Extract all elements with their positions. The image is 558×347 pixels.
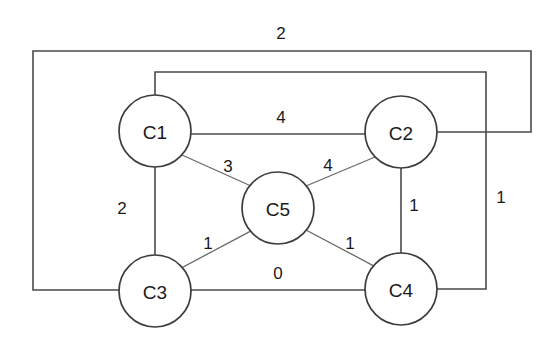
graph-diagram: 2 1 4 2 1 0 3 4 1 1 (0, 0, 558, 347)
node-c5[interactable]: C5 (242, 172, 314, 244)
node-c5-label: C5 (266, 199, 290, 220)
edge-weight-c1-c5: 3 (223, 157, 232, 176)
node-c2-label: C2 (389, 123, 413, 144)
edge-weight-c3-c2: 2 (276, 24, 285, 43)
edge-weight-c1-c2: 4 (276, 108, 285, 127)
edge-weight-c3-c4: 0 (273, 264, 282, 283)
edge-c3-c2-outer: 2 (33, 24, 531, 291)
edge-weight-c3-c5: 1 (203, 234, 212, 253)
edge-c5-c2-path (306, 157, 375, 186)
edge-c2-c4: 1 (401, 168, 419, 253)
edge-c1-c4-inner: 1 (155, 72, 506, 289)
node-c1[interactable]: C1 (119, 95, 191, 167)
node-c3-label: C3 (143, 282, 167, 303)
edge-c5-c4: 1 (306, 230, 374, 266)
edge-c3-c5: 1 (183, 231, 251, 267)
node-c4[interactable]: C4 (365, 253, 437, 325)
edge-weight-c5-c2: 4 (323, 156, 332, 175)
edge-c3-c4: 0 (191, 264, 365, 291)
edge-weight-c2-c4: 1 (409, 196, 418, 215)
edge-weight-c1-c4: 1 (496, 188, 505, 207)
edge-c1-c3: 2 (117, 167, 155, 255)
edge-c1-c5-path (182, 155, 251, 186)
node-c4-label: C4 (389, 280, 414, 301)
edge-c5-c4-path (306, 230, 374, 266)
edge-c5-c2: 4 (306, 156, 375, 187)
edge-c3-c2-outer-path (33, 51, 531, 290)
edge-weight-c5-c4: 1 (345, 234, 354, 253)
edge-c1-c5: 3 (182, 155, 251, 186)
node-c2[interactable]: C2 (365, 96, 437, 168)
edge-c1-c2: 4 (191, 108, 365, 135)
node-c3[interactable]: C3 (119, 255, 191, 327)
edge-c3-c5-path (183, 231, 251, 267)
edge-weight-c1-c3: 2 (117, 199, 126, 218)
node-c1-label: C1 (143, 122, 167, 143)
